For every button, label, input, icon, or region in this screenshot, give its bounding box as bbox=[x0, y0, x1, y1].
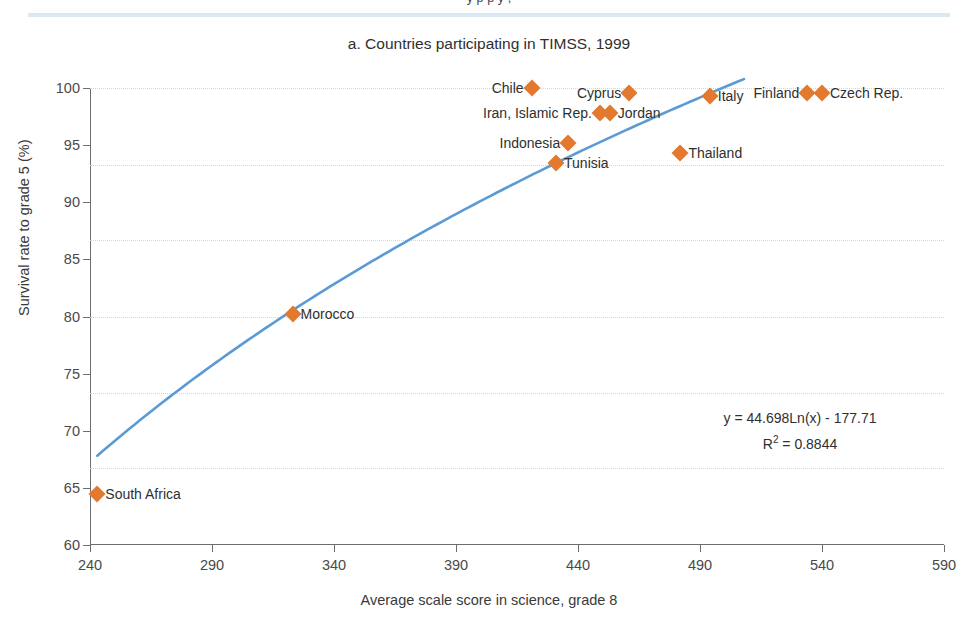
x-axis-tick bbox=[334, 545, 335, 552]
y-axis-tick-label: 70 bbox=[64, 423, 80, 439]
r-squared-symbol: R bbox=[763, 436, 773, 452]
data-point-label: Thailand bbox=[688, 145, 742, 161]
y-axis-tick-label: 100 bbox=[56, 80, 80, 96]
y-axis-tick bbox=[83, 202, 90, 203]
y-axis-tick bbox=[83, 317, 90, 318]
x-axis-tick-label: 340 bbox=[322, 557, 346, 573]
x-axis-tick-label: 490 bbox=[688, 557, 712, 573]
gridline bbox=[90, 317, 944, 318]
data-point-label: Italy bbox=[718, 88, 744, 104]
y-axis-tick bbox=[83, 88, 90, 89]
data-point-marker[interactable] bbox=[560, 134, 577, 151]
header-rule bbox=[28, 13, 950, 17]
y-axis-tick-label: 80 bbox=[64, 309, 80, 325]
data-point-label: Iran, Islamic Rep. bbox=[483, 105, 592, 121]
x-axis-label: Average scale score in science, grade 8 bbox=[0, 592, 978, 608]
x-axis-tick-label: 440 bbox=[566, 557, 590, 573]
y-axis-tick bbox=[83, 545, 90, 546]
y-axis-tick bbox=[83, 145, 90, 146]
data-point-label: Cyprus bbox=[577, 85, 621, 101]
x-axis-tick bbox=[578, 545, 579, 552]
chart-title: a. Countries participating in TIMSS, 199… bbox=[0, 35, 978, 53]
data-point-label: Morocco bbox=[301, 306, 355, 322]
x-axis-tick bbox=[700, 545, 701, 552]
data-point-label: Chile bbox=[492, 80, 524, 96]
plot-area: 6065707580859095100 24029034039044049054… bbox=[90, 88, 944, 545]
r-squared-line: R2 = 0.8844 bbox=[690, 429, 910, 455]
data-point-marker[interactable] bbox=[284, 306, 301, 323]
y-axis-tick-label: 65 bbox=[64, 480, 80, 496]
y-axis-tick-label: 60 bbox=[64, 537, 80, 553]
data-point-marker[interactable] bbox=[523, 80, 540, 97]
data-point-label: Czech Rep. bbox=[830, 85, 903, 101]
x-axis-tick bbox=[456, 545, 457, 552]
x-axis-tick-label: 590 bbox=[932, 557, 956, 573]
y-axis-tick-label: 95 bbox=[64, 137, 80, 153]
x-axis-tick-label: 540 bbox=[810, 557, 834, 573]
x-axis-line bbox=[90, 544, 944, 545]
x-axis-tick bbox=[944, 545, 945, 552]
data-point-label: Indonesia bbox=[500, 135, 561, 151]
x-axis-tick-label: 390 bbox=[444, 557, 468, 573]
r-squared-exponent: 2 bbox=[773, 434, 779, 445]
gridline bbox=[90, 240, 944, 241]
y-axis-label: Survival rate to grade 5 (%) bbox=[16, 140, 32, 317]
y-axis-tick-label: 90 bbox=[64, 194, 80, 210]
data-point-marker[interactable] bbox=[701, 87, 718, 104]
x-axis-tick bbox=[212, 545, 213, 552]
trendline-equation: y = 44.698Ln(x) - 177.71 R2 = 0.8844 bbox=[690, 408, 910, 455]
data-point-marker[interactable] bbox=[548, 155, 565, 172]
x-axis-tick bbox=[90, 545, 91, 552]
y-axis-tick-label: 75 bbox=[64, 366, 80, 382]
data-point-label: Tunisia bbox=[564, 155, 609, 171]
equation-line: y = 44.698Ln(x) - 177.71 bbox=[690, 408, 910, 429]
data-point-marker[interactable] bbox=[672, 145, 689, 162]
gridline bbox=[90, 468, 944, 469]
x-axis-tick-label: 290 bbox=[200, 557, 224, 573]
gridline bbox=[90, 165, 944, 166]
data-point-label: Jordan bbox=[618, 105, 661, 121]
data-point-label: Finland bbox=[753, 85, 799, 101]
y-axis-tick bbox=[83, 259, 90, 260]
data-point-label: South Africa bbox=[105, 486, 181, 502]
cropped-header-text: y p p y , bbox=[0, 0, 978, 7]
y-axis-tick bbox=[83, 431, 90, 432]
x-axis-tick bbox=[822, 545, 823, 552]
x-axis-tick-label: 240 bbox=[78, 557, 102, 573]
data-point-marker[interactable] bbox=[601, 105, 618, 122]
data-point-marker[interactable] bbox=[814, 84, 831, 101]
gridline bbox=[90, 393, 944, 394]
data-point-marker[interactable] bbox=[621, 84, 638, 101]
y-axis-tick bbox=[83, 488, 90, 489]
y-axis-tick-label: 85 bbox=[64, 251, 80, 267]
y-axis-tick bbox=[83, 374, 90, 375]
r-squared-value: = 0.8844 bbox=[782, 436, 837, 452]
